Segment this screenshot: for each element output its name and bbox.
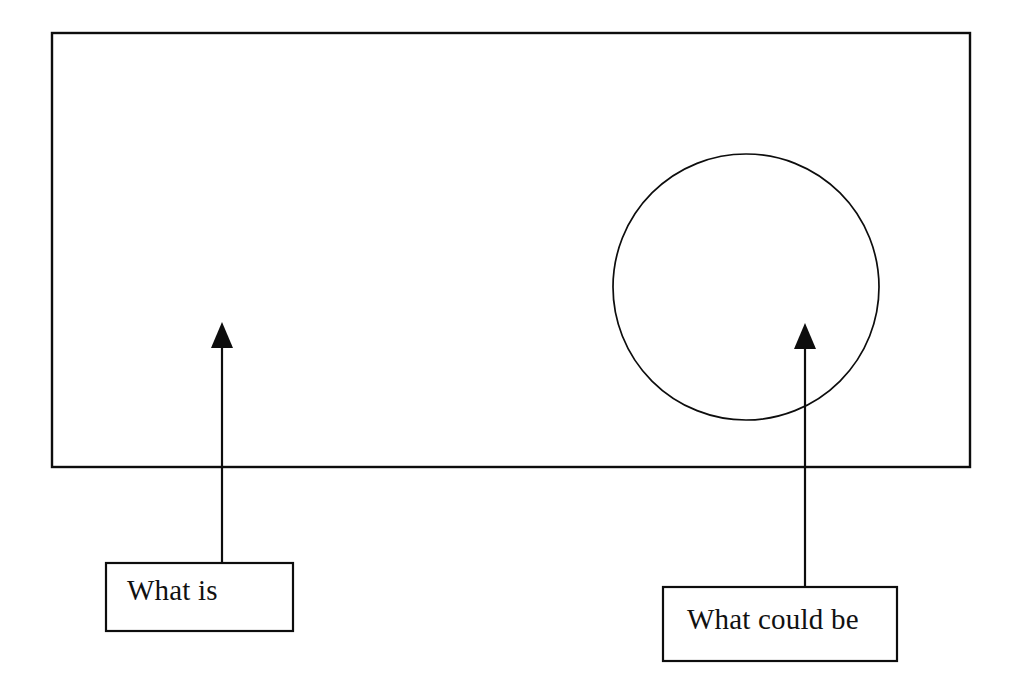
what-could-be-arrow-head-icon [794, 323, 816, 349]
what-could-be-label-box: What could be [663, 587, 897, 661]
what-is-arrow-head-icon [211, 322, 233, 348]
what-could-be-arrow [794, 323, 816, 587]
what-is-label-box: What is [106, 563, 293, 631]
possibility-circle [613, 154, 879, 420]
diagram-svg: What is What could be [0, 0, 1018, 696]
what-is-arrow [211, 322, 233, 563]
what-could-be-label-text: What could be [687, 603, 859, 635]
diagram-canvas: What is What could be [0, 0, 1018, 696]
current-state-frame [52, 33, 970, 467]
what-is-label-text: What is [127, 574, 218, 606]
